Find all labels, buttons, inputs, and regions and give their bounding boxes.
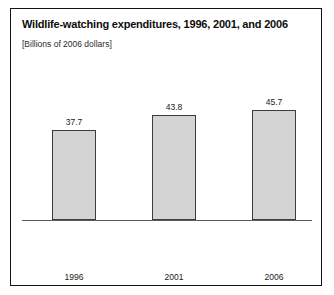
bar-value-label: 37.7 [52,117,96,127]
chart-title: Wildlife-watching expenditures, 1996, 20… [22,18,288,30]
category-axis-line [22,220,312,221]
x-tick-label: 2001 [139,272,209,282]
bar[interactable] [52,130,96,220]
x-tick-label: 2006 [239,272,309,282]
bar-value-label: 45.7 [252,97,296,107]
bar[interactable] [252,110,296,220]
chart-figure: Wildlife-watching expenditures, 1996, 20… [10,8,322,286]
bar[interactable] [152,115,196,220]
plot-area: 37.7 1996 43.8 2001 45.7 2006 [22,57,312,269]
x-tick-label: 1996 [39,272,109,282]
bar-value-label: 43.8 [152,102,196,112]
chart-subtitle: [Billions of 2006 dollars] [22,39,112,49]
